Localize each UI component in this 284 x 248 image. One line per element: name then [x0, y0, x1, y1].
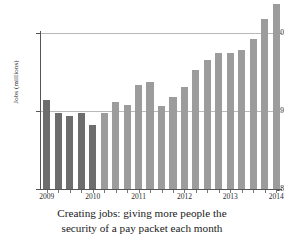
x-tick-mark [207, 190, 208, 193]
bar [158, 106, 165, 189]
x-tick-mark [173, 190, 174, 193]
bar-series [41, 0, 282, 189]
bar [261, 19, 268, 189]
x-tick-label-2012: 2012 [177, 193, 192, 201]
x-tick-label-2013: 2013 [223, 193, 238, 201]
x-tick-mark [70, 190, 71, 193]
bar [101, 113, 108, 189]
bar [66, 116, 73, 189]
x-tick-mark [242, 190, 243, 193]
chart-caption: Creating jobs: giving more people the se… [0, 206, 284, 236]
caption-line-1: Creating jobs: giving more people the [0, 206, 284, 221]
bar [78, 113, 85, 189]
bar [273, 4, 280, 189]
bar [215, 53, 222, 190]
x-tick-mark [150, 190, 151, 193]
x-tick-mark [265, 190, 266, 193]
x-tick-label-2014: 2014 [269, 193, 284, 201]
bar [55, 113, 62, 189]
x-tick-mark [219, 190, 220, 193]
bar [43, 100, 50, 189]
caption-line-2: security of a pay packet each month [0, 221, 284, 236]
bar [146, 82, 153, 189]
bar [169, 97, 176, 189]
bar [89, 125, 96, 189]
bar [238, 50, 245, 189]
bar [250, 39, 257, 189]
bar [124, 105, 131, 189]
y-axis-label: Jobs (millions) [12, 34, 20, 130]
x-tick-label-2011: 2011 [131, 193, 146, 201]
x-tick-mark [116, 190, 117, 193]
bar [192, 70, 199, 189]
x-tick-mark [127, 190, 128, 193]
x-tick-label-2009: 2009 [39, 193, 54, 201]
x-tick-mark [196, 190, 197, 193]
x-tick-mark [253, 190, 254, 193]
bar [112, 102, 119, 189]
x-tick-mark [162, 190, 163, 193]
bar [135, 85, 142, 189]
bar [204, 60, 211, 189]
bar [181, 87, 188, 189]
plot-area: Jobs (millions) 282930 20092010201120122… [0, 0, 284, 200]
x-tick-mark [58, 190, 59, 193]
x-tick-label-2010: 2010 [85, 193, 100, 201]
chart-figure: Jobs (millions) 282930 20092010201120122… [0, 0, 284, 248]
bar [227, 53, 234, 190]
x-tick-mark [81, 190, 82, 193]
x-tick-mark [104, 190, 105, 193]
